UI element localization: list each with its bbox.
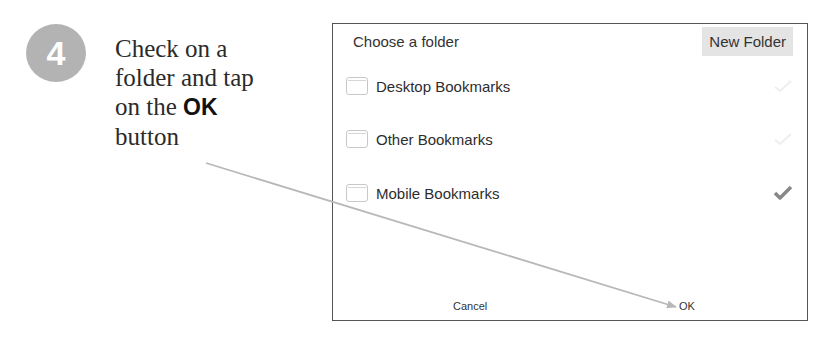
- cancel-button[interactable]: Cancel: [453, 300, 487, 312]
- folder-label: Mobile Bookmarks: [376, 185, 773, 202]
- folder-label: Desktop Bookmarks: [376, 78, 773, 95]
- instruction-line-3-prefix: on the: [115, 93, 183, 120]
- folder-label: Other Bookmarks: [376, 131, 773, 148]
- checkmark-selected-icon: [773, 185, 793, 201]
- checkmark-icon: [773, 131, 793, 147]
- choose-folder-dialog: Choose a folder New Folder Desktop Bookm…: [332, 23, 808, 321]
- checkmark-icon: [773, 78, 793, 94]
- folder-row-desktop-bookmarks[interactable]: Desktop Bookmarks: [346, 71, 793, 101]
- ok-button[interactable]: OK: [679, 300, 695, 312]
- instruction-line-2: folder and tap: [115, 63, 325, 92]
- folder-icon: [346, 77, 368, 95]
- folder-row-mobile-bookmarks[interactable]: Mobile Bookmarks: [346, 178, 793, 208]
- folder-row-other-bookmarks[interactable]: Other Bookmarks: [346, 124, 793, 154]
- folder-icon: [346, 130, 368, 148]
- instruction-line-3: on the OK: [115, 92, 325, 122]
- step-number: 4: [47, 34, 66, 73]
- new-folder-button[interactable]: New Folder: [702, 27, 793, 56]
- dialog-title: Choose a folder: [353, 33, 459, 50]
- instruction-line-1: Check on a: [115, 34, 325, 63]
- folder-icon: [346, 184, 368, 202]
- instruction-ok-emphasis: OK: [183, 94, 218, 120]
- instruction-text: Check on a folder and tap on the OK butt…: [115, 34, 325, 151]
- step-number-badge: 4: [26, 24, 86, 82]
- instruction-line-4: button: [115, 122, 325, 151]
